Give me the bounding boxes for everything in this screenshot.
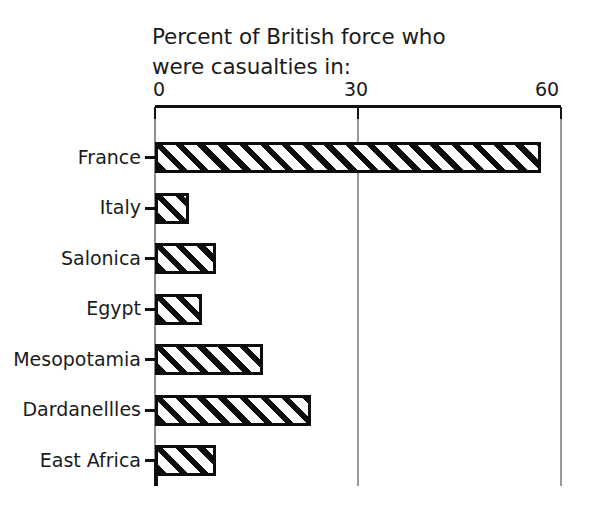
bar-chart: Percent of British force who were casual…	[0, 0, 597, 525]
x-tick-label-0: 0	[153, 78, 165, 100]
x-tick-label-60: 60	[535, 78, 559, 100]
bar-east-africa	[155, 445, 216, 476]
bar-dardanellles	[155, 395, 311, 426]
category-tick-5	[145, 409, 156, 412]
category-tick-4	[145, 358, 156, 361]
bar-salonica	[155, 243, 216, 274]
category-label-mesopotamia: Mesopotamia	[1, 348, 141, 370]
category-axis-labels: FranceItalySalonicaEgyptMesopotamiaDarda…	[0, 0, 141, 525]
category-tick-0	[145, 156, 156, 159]
category-label-france: France	[1, 146, 141, 168]
category-tick-3	[145, 308, 156, 311]
category-tick-6	[145, 459, 156, 462]
category-tick-2	[145, 257, 156, 260]
x-axis-tick-0	[154, 107, 156, 119]
x-tick-label-30: 30	[344, 78, 368, 100]
category-tick-1	[145, 207, 156, 210]
category-label-dardanellles: Dardanellles	[1, 398, 141, 420]
gridline-60	[560, 107, 562, 486]
bar-mesopotamia	[155, 344, 263, 375]
x-axis-tick-30	[357, 107, 359, 119]
bar-egypt	[155, 294, 202, 325]
category-label-salonica: Salonica	[1, 247, 141, 269]
category-label-egypt: Egypt	[1, 297, 141, 319]
category-label-east-africa: East Africa	[1, 449, 141, 471]
bar-italy	[155, 193, 189, 224]
bar-france	[155, 142, 541, 173]
category-label-italy: Italy	[1, 196, 141, 218]
x-axis-tick-60	[560, 107, 562, 119]
